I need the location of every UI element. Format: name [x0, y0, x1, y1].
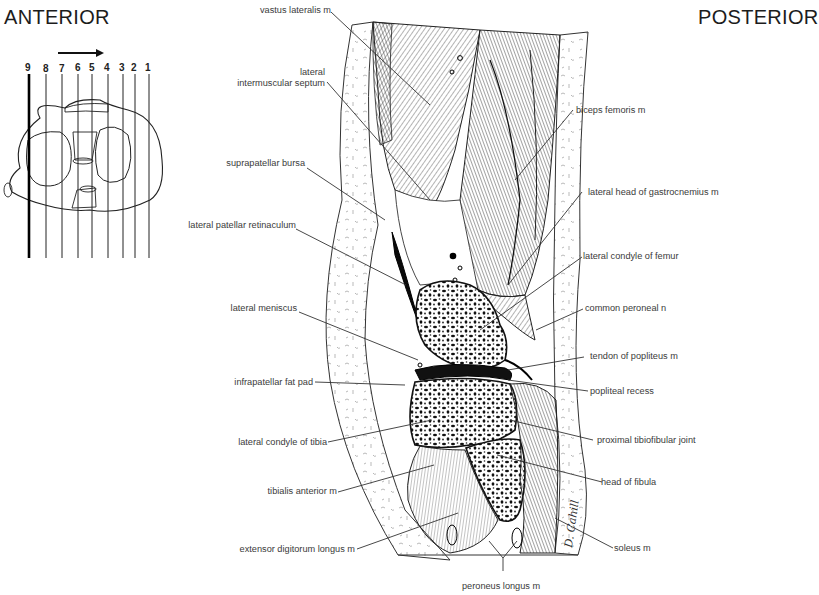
- sagittal-knee-section: [326, 22, 588, 560]
- label-lateral-intermuscular-septum-line1: lateral: [300, 67, 325, 78]
- label-proximal-tibiofibular-joint: proximal tibiofibular joint: [597, 435, 696, 446]
- label-lateral-condyle-of-femur: lateral condyle of femur: [583, 251, 679, 262]
- label-common-peroneal-nerve: common peroneal n: [585, 303, 666, 314]
- label-lateral-patellar-retinaculum: lateral patellar retinaculum: [188, 220, 296, 231]
- label-peroneus-longus: peroneus longus m: [462, 581, 540, 592]
- label-tibialis-anterior: tibialis anterior m: [268, 486, 337, 497]
- label-extensor-digitorum-longus: extensor digitorum longus m: [240, 544, 355, 555]
- label-infrapatellar-fat-pad: infrapatellar fat pad: [234, 377, 313, 388]
- label-lateral-condyle-of-tibia: lateral condyle of tibia: [238, 437, 327, 448]
- label-popliteal-recess: popliteal recess: [590, 386, 654, 397]
- label-lateral-meniscus: lateral meniscus: [231, 303, 297, 314]
- label-lateral-head-of-gastrocnemius: lateral head of gastrocnemius m: [588, 187, 719, 198]
- label-suprapatellar-bursa: suprapatellar bursa: [226, 158, 305, 169]
- label-soleus: soleus m: [614, 543, 651, 554]
- label-tendon-of-popliteus: tendon of popliteus m: [590, 351, 678, 362]
- label-biceps-femoris: biceps femoris m: [576, 105, 645, 116]
- key-diagram: [4, 49, 163, 258]
- label-vastus-lateralis: vastus lateralis m: [260, 5, 331, 16]
- label-head-of-fibula: head of fibula: [601, 477, 656, 488]
- label-lateral-intermuscular-septum-line2: intermuscular septum: [237, 78, 325, 89]
